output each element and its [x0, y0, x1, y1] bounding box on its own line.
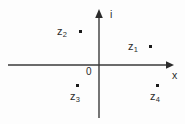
axes-group: [0, 0, 185, 124]
imaginary-axis-label: i: [110, 9, 112, 20]
point-label-z1: z1: [128, 41, 138, 52]
imaginary-axis: [95, 9, 103, 118]
point-label-z3: z3: [70, 91, 80, 102]
point-marker-z4: [156, 84, 159, 87]
real-axis-label: x: [172, 70, 177, 81]
complex-plane-figure: i x 0 z1 z2 z3 z4: [0, 0, 185, 124]
point-label-z2: z2: [57, 26, 67, 37]
point-marker-z2: [79, 30, 82, 33]
real-axis-arrowhead: [166, 61, 174, 69]
origin-label: 0: [86, 67, 92, 77]
point-marker-z3: [76, 84, 79, 87]
imaginary-axis-arrowhead: [95, 9, 103, 18]
point-marker-z1: [149, 45, 152, 48]
point-label-z4: z4: [150, 91, 160, 102]
